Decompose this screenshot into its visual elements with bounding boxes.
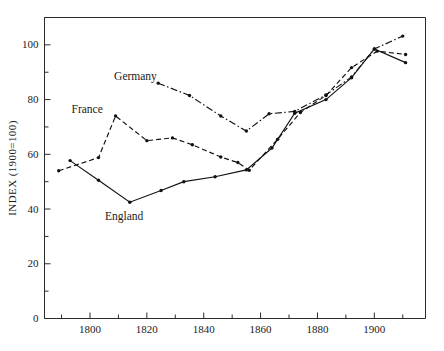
data-point	[350, 75, 353, 78]
data-point	[171, 136, 174, 139]
data-point	[159, 189, 162, 192]
data-point	[188, 94, 191, 97]
data-point	[324, 93, 327, 96]
data-point	[219, 114, 222, 117]
data-point	[375, 49, 378, 52]
x-axis: 180018201840186018801900	[62, 313, 403, 335]
data-point	[324, 98, 327, 101]
x-tick-label: 1800	[79, 323, 102, 335]
series-germany	[157, 34, 405, 132]
data-point	[293, 110, 296, 113]
data-point	[245, 129, 248, 132]
data-point	[114, 114, 117, 117]
data-point	[299, 111, 302, 114]
y-tick-label: 100	[22, 38, 39, 50]
data-point	[191, 143, 194, 146]
data-point	[276, 138, 279, 141]
data-point	[213, 175, 216, 178]
x-tick-label: 1900	[363, 323, 386, 335]
data-point	[68, 159, 71, 162]
y-tick-label: 20	[28, 257, 40, 269]
plot-frame	[45, 18, 426, 319]
y-tick-label: 60	[28, 148, 40, 160]
series-label-england: England	[105, 210, 144, 223]
x-tick-label: 1840	[193, 323, 216, 335]
y-tick-label: 40	[28, 203, 40, 215]
x-tick-label: 1820	[136, 323, 159, 335]
data-point	[97, 156, 100, 159]
data-point	[401, 34, 404, 37]
data-point	[219, 155, 222, 158]
series-label-france: France	[72, 103, 103, 115]
data-point	[182, 180, 185, 183]
series-france	[57, 49, 407, 172]
data-point	[97, 179, 100, 182]
data-point	[404, 61, 407, 64]
data-point	[373, 47, 376, 50]
x-tick-label: 1880	[306, 323, 329, 335]
data-point	[267, 112, 270, 115]
y-axis-title: INDEX (1900=100)	[6, 120, 19, 215]
data-point	[248, 168, 251, 171]
data-point	[236, 161, 239, 164]
line-chart: 020406080100180018201840186018801900INDE…	[0, 0, 444, 351]
data-point	[128, 201, 131, 204]
series-label-germany: Germany	[114, 70, 157, 83]
series-line	[59, 51, 406, 171]
data-point	[404, 53, 407, 56]
series-line	[158, 36, 403, 131]
y-tick-label: 0	[33, 312, 39, 324]
data-point	[350, 66, 353, 69]
data-point	[145, 139, 148, 142]
chart-container: 020406080100180018201840186018801900INDE…	[0, 0, 444, 351]
data-point	[57, 169, 60, 172]
y-axis: 020406080100	[22, 18, 51, 325]
y-tick-label: 80	[28, 93, 40, 105]
x-tick-label: 1860	[250, 323, 273, 335]
data-point	[157, 81, 160, 84]
